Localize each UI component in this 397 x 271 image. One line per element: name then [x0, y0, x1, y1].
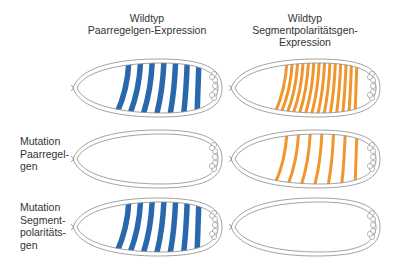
pair-rule-stripe — [183, 59, 187, 117]
embryo-inner-membrane — [235, 202, 376, 252]
segment-polarity-stripe — [273, 130, 287, 188]
pair-rule-stripe — [115, 59, 129, 117]
pair-rule-stripe — [156, 198, 164, 256]
pair-rule-stripe — [170, 59, 176, 117]
segment-polarity-stripe — [342, 59, 346, 117]
stripe-group — [115, 59, 199, 117]
segment-polarity-stripe — [355, 59, 357, 117]
embryo — [71, 130, 222, 188]
pair-rule-stripe — [183, 198, 187, 256]
segment-polarity-stripe — [349, 59, 352, 117]
pair-rule-stripe — [142, 59, 152, 117]
embryo — [229, 130, 380, 188]
stripe-group — [273, 130, 357, 188]
embryo-inner-membrane — [77, 134, 218, 184]
segment-polarity-stripe — [287, 130, 299, 188]
segment-polarity-stripe — [314, 130, 322, 188]
stripe-group — [273, 59, 357, 117]
embryo-diagram — [0, 0, 397, 271]
segment-polarity-stripe — [355, 130, 357, 188]
pair-rule-stripe — [142, 198, 152, 256]
segment-polarity-stripe — [300, 130, 310, 188]
pair-rule-stripe — [156, 59, 164, 117]
pair-rule-stripe — [197, 198, 199, 256]
pair-rule-stripe — [170, 198, 176, 256]
embryo — [71, 59, 222, 117]
segment-polarity-stripe — [273, 59, 287, 117]
segment-polarity-stripe — [336, 59, 341, 117]
segment-polarity-stripe — [328, 130, 334, 188]
pair-rule-stripe — [197, 59, 199, 117]
stripe-group — [115, 198, 199, 256]
embryo — [71, 198, 222, 256]
pair-rule-stripe — [115, 198, 129, 256]
embryo — [229, 59, 380, 117]
segment-polarity-stripe — [341, 130, 345, 188]
embryo — [229, 198, 380, 256]
